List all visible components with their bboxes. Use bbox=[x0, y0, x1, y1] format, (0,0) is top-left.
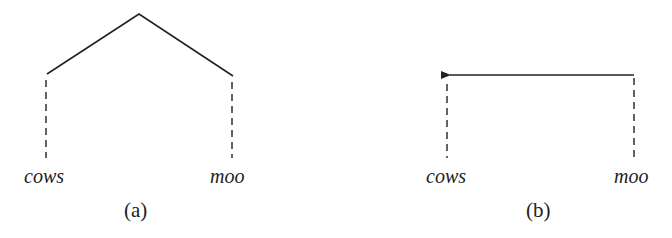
tree-branches bbox=[47, 14, 233, 76]
leaf-word-moo-b: moo bbox=[614, 165, 648, 188]
leaf-word-moo-a: moo bbox=[210, 165, 244, 188]
panel-a-tree bbox=[46, 14, 233, 158]
caption-a: (a) bbox=[124, 198, 147, 223]
leaf-word-cows-a: cows bbox=[24, 165, 64, 188]
caption-b: (b) bbox=[526, 198, 551, 223]
panel-b-dependency bbox=[447, 75, 634, 158]
diagram-canvas bbox=[0, 0, 672, 238]
leaf-word-cows-b: cows bbox=[426, 165, 466, 188]
